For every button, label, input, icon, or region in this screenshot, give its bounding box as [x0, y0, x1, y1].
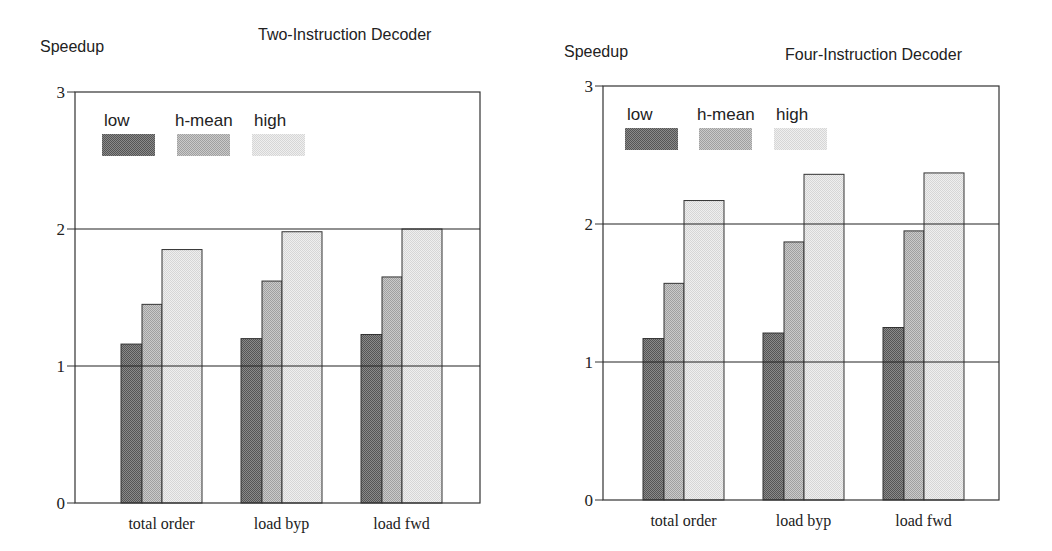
legend-label-h-mean: h-mean [697, 105, 755, 124]
legend-label-high: high [254, 111, 286, 130]
legend-swatch-low [625, 128, 678, 150]
bar-low [121, 344, 142, 503]
x-tick-label: total order [128, 515, 195, 532]
charts-canvas: Two-Instruction DecoderSpeeduptotal orde… [0, 0, 1052, 551]
y-tick-label: 2 [585, 215, 594, 234]
x-tick-label: load fwd [895, 512, 951, 529]
bar-h-mean [664, 283, 684, 500]
y-axis-label: Speedup [40, 38, 104, 55]
chart-two-instruction-decoder: Two-Instruction DecoderSpeeduptotal orde… [40, 26, 480, 533]
legend-swatch-high [252, 134, 305, 156]
chart-figure: Two-Instruction DecoderSpeeduptotal orde… [0, 0, 1052, 551]
bar-high [804, 174, 844, 500]
x-tick-label: load fwd [373, 515, 429, 532]
y-axis-label: Speedup [564, 43, 628, 60]
y-tick-label: 1 [585, 353, 594, 372]
x-tick-label: load byp [776, 512, 832, 530]
legend-label-h-mean: h-mean [175, 111, 233, 130]
y-tick-label: 0 [585, 491, 594, 510]
legend-label-low: low [104, 111, 130, 130]
y-tick-label: 3 [585, 77, 594, 96]
legend-swatch-h-mean [177, 134, 230, 156]
bar-low [763, 333, 784, 500]
bar-h-mean [784, 242, 804, 500]
bar-high [282, 232, 322, 503]
x-tick-label: total order [650, 512, 717, 529]
legend-label-high: high [776, 105, 808, 124]
chart-title: Two-Instruction Decoder [258, 26, 432, 43]
bar-h-mean [904, 231, 924, 500]
legend-swatch-low [102, 134, 155, 156]
y-tick-label: 2 [57, 220, 66, 239]
y-tick-label: 0 [57, 494, 66, 513]
bar-high [684, 201, 724, 500]
legend-swatch-h-mean [699, 128, 752, 150]
bar-low [361, 334, 382, 503]
bar-low [643, 339, 664, 500]
bar-h-mean [142, 304, 162, 503]
bar-high [162, 250, 202, 503]
bar-h-mean [382, 277, 402, 503]
chart-four-instruction-decoder: Four-Instruction DecoderSpeeduptotal ord… [564, 43, 999, 530]
x-tick-label: load byp [254, 515, 310, 533]
chart-title: Four-Instruction Decoder [785, 46, 963, 63]
bar-low [241, 339, 262, 503]
y-tick-label: 3 [57, 83, 66, 102]
bar-h-mean [262, 281, 282, 503]
bar-low [883, 328, 904, 501]
y-tick-label: 1 [57, 357, 66, 376]
legend-swatch-high [774, 128, 827, 150]
legend-label-low: low [627, 105, 653, 124]
bar-high [924, 173, 964, 500]
